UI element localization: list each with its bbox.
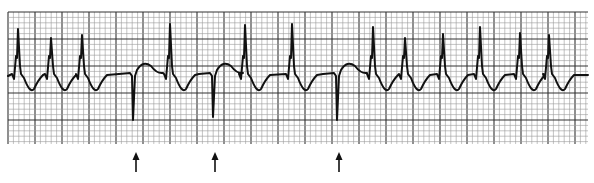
ecg-strip [0, 0, 594, 183]
